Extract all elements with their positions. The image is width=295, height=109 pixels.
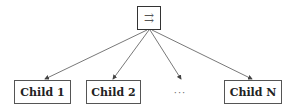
child-node-1: Child 1 <box>14 80 71 104</box>
child-label: Child N <box>230 86 277 99</box>
edge-root-child-1 <box>45 30 147 79</box>
child-node-n: Child N <box>224 80 282 104</box>
child-node-2: Child 2 <box>86 80 141 104</box>
child-label: Child 1 <box>20 86 64 99</box>
edge-root-ellipsis <box>150 30 181 79</box>
edge-root-child-n <box>152 30 252 79</box>
ellipsis: ··· <box>170 87 190 98</box>
root-node: ⇉ <box>137 6 161 30</box>
rightwards-paired-arrows-icon: ⇉ <box>144 11 154 25</box>
child-label: Child 2 <box>91 86 135 99</box>
